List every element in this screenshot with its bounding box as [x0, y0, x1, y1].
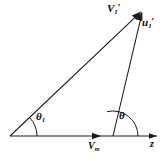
- label-vm-base: V: [88, 140, 95, 151]
- label-theta-1-sub: 1: [42, 116, 45, 123]
- label-vm-sub: m: [95, 145, 100, 152]
- label-u1-prime-mark: ′: [152, 16, 155, 27]
- label-theta-1-base: θ: [36, 110, 42, 122]
- label-v1-prime: V1′: [107, 3, 121, 14]
- diagram-canvas: [0, 0, 164, 161]
- label-z-axis: z: [150, 139, 154, 149]
- vector-diagram-figure: V1′ u1′ θ1 θ Vm z: [0, 0, 164, 161]
- label-theta-base: θ: [119, 109, 125, 121]
- label-u1-prime: u1′: [142, 17, 154, 28]
- label-theta: θ: [119, 110, 125, 121]
- label-v1-prime-mark: ′: [118, 2, 121, 13]
- label-theta-1: θ1: [36, 111, 45, 122]
- label-vm: Vm: [88, 141, 100, 151]
- label-z-axis-base: z: [150, 138, 154, 149]
